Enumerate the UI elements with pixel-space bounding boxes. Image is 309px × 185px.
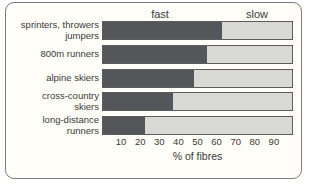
x-tick-label: 30 — [154, 136, 165, 147]
x-tick-label: 60 — [211, 136, 222, 147]
stacked-bar-sprinters — [102, 21, 293, 40]
slow-fibre-segment — [207, 46, 292, 63]
stacked-bar-alpine-skiers — [102, 69, 293, 88]
x-tick-label: 10 — [116, 136, 127, 147]
fast-column-header: fast — [151, 8, 169, 20]
fast-fibre-segment — [103, 46, 207, 63]
slow-fibre-segment — [173, 93, 292, 110]
fast-fibre-segment — [103, 22, 222, 39]
fast-fibre-segment — [103, 117, 145, 134]
x-tick-label: 80 — [250, 136, 261, 147]
x-tick-label: 90 — [269, 136, 280, 147]
x-tick-label: 20 — [135, 136, 146, 147]
x-tick-label: 50 — [192, 136, 203, 147]
figure: fast slow sprinters, throwers jumpers 80… — [0, 0, 309, 185]
stacked-bar-800m-runners — [102, 45, 293, 64]
slow-fibre-segment — [222, 22, 292, 39]
stacked-bar-long-distance-runners — [102, 116, 293, 135]
fast-fibre-segment — [103, 70, 194, 87]
slow-fibre-segment — [194, 70, 292, 87]
x-axis-ticks: 102030405060708090 — [102, 136, 293, 148]
x-tick-label: 70 — [230, 136, 241, 147]
slow-fibre-segment — [145, 117, 292, 134]
stacked-bar-cross-country-skiers — [102, 92, 293, 111]
x-axis-label: % of fibres — [102, 150, 293, 162]
fast-fibre-segment — [103, 93, 173, 110]
slow-column-header: slow — [246, 8, 268, 20]
x-tick-label: 40 — [173, 136, 184, 147]
